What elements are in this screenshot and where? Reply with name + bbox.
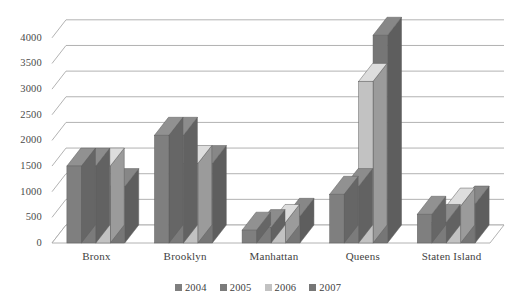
bar-bronx-2004: [67, 148, 95, 243]
x-axis-category-labels: BronxBrooklynManhattanQueensStaten Islan…: [52, 248, 496, 264]
legend-item-2006[interactable]: 2006: [265, 282, 297, 293]
x-tick-label-brooklyn: Brooklyn: [141, 248, 230, 264]
legend-label: 2005: [230, 282, 252, 293]
legend-swatch-icon: [175, 284, 182, 291]
legend-swatch-icon: [309, 284, 316, 291]
legend-item-2007[interactable]: 2007: [309, 282, 341, 293]
x-tick-label-staten-island: Staten Island: [407, 248, 496, 264]
legend-swatch-icon: [220, 284, 227, 291]
legend-label: 2007: [319, 282, 341, 293]
legend-label: 2006: [275, 282, 297, 293]
legend-item-2005[interactable]: 2005: [220, 282, 252, 293]
x-tick-label-bronx: Bronx: [52, 248, 141, 264]
x-tick-label-queens: Queens: [318, 248, 407, 264]
legend-item-2004[interactable]: 2004: [175, 282, 207, 293]
bar-brooklyn-2004: [154, 117, 182, 243]
chart-legend: 2004200520062007: [0, 282, 516, 293]
x-tick-label-manhattan: Manhattan: [230, 248, 319, 264]
legend-label: 2004: [185, 282, 207, 293]
legend-swatch-icon: [265, 284, 272, 291]
chart-figure: 05001000150020002500300035004000 BronxBr…: [0, 0, 516, 300]
